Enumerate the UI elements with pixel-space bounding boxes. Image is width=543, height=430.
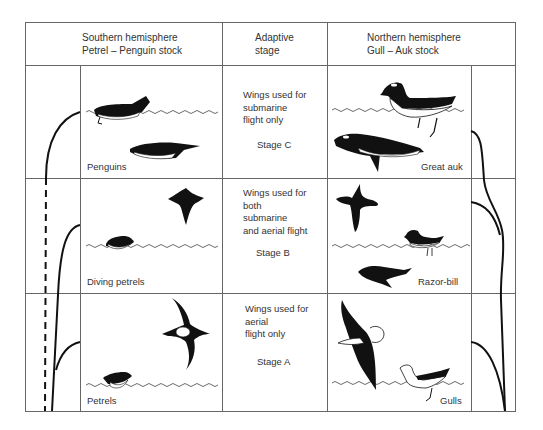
petrel-flying-icon bbox=[162, 298, 210, 370]
description-line: flight only bbox=[243, 114, 306, 127]
stage-c-label: Stage C bbox=[257, 139, 291, 152]
razorbill-floating-icon bbox=[404, 230, 444, 256]
southern-lineage-tree bbox=[45, 112, 80, 411]
header-northern-line1: Northern hemisphere bbox=[367, 31, 461, 44]
description-line: aerial bbox=[245, 316, 308, 329]
description-line: both bbox=[243, 200, 307, 213]
description-line: Wings used for bbox=[245, 303, 308, 316]
stage-a-label: Stage A bbox=[257, 356, 290, 369]
diving-petrel-flying-icon bbox=[168, 188, 204, 225]
header-southern-line1: Southern hemisphere bbox=[82, 31, 182, 44]
razorbill-swimming-icon bbox=[358, 266, 412, 288]
description-line: and aerial flight bbox=[243, 225, 307, 238]
petrels-label: Petrels bbox=[87, 395, 117, 406]
header-adaptive: Adaptive stage bbox=[255, 31, 294, 57]
description-line: Wings used for bbox=[243, 187, 307, 200]
gulls-label: Gulls bbox=[440, 395, 462, 406]
stage-a-description: Wings used for aerial flight only bbox=[245, 303, 308, 341]
header-southern-line2: Petrel – Penguin stock bbox=[82, 44, 182, 57]
stage-b-description: Wings used for both submarine and aerial… bbox=[243, 187, 307, 237]
description-line: flight only bbox=[245, 328, 308, 341]
description-line: Wings used for bbox=[243, 89, 306, 102]
razorbill-flying-icon bbox=[336, 184, 378, 232]
great-auk-floating-icon bbox=[380, 82, 456, 137]
description-line: submarine bbox=[243, 212, 307, 225]
penguins-label: Penguins bbox=[87, 161, 127, 172]
petrel-surface-icon bbox=[103, 372, 132, 388]
description-line: submarine bbox=[243, 102, 306, 115]
header-northern-line2: Gull – Auk stock bbox=[367, 44, 461, 57]
stage-c-description: Wings used for submarine flight only bbox=[243, 89, 306, 127]
header-northern: Northern hemisphere Gull – Auk stock bbox=[367, 31, 461, 57]
penguin-surface-icon bbox=[94, 96, 150, 124]
header-adaptive-line2: stage bbox=[255, 44, 294, 57]
gull-flying-icon bbox=[338, 300, 384, 390]
penguin-swimming-icon bbox=[130, 142, 200, 158]
northern-lineage-tree bbox=[471, 131, 505, 411]
great-auk-swimming-icon bbox=[334, 134, 424, 172]
header-adaptive-line1: Adaptive bbox=[255, 31, 294, 44]
stage-b-label: Stage B bbox=[256, 247, 290, 260]
great-auk-label: Great auk bbox=[421, 161, 463, 172]
razor-bill-label: Razor-bill bbox=[418, 276, 458, 287]
diving-petrels-label: Diving petrels bbox=[87, 276, 145, 287]
header-southern: Southern hemisphere Petrel – Penguin sto… bbox=[82, 31, 182, 57]
